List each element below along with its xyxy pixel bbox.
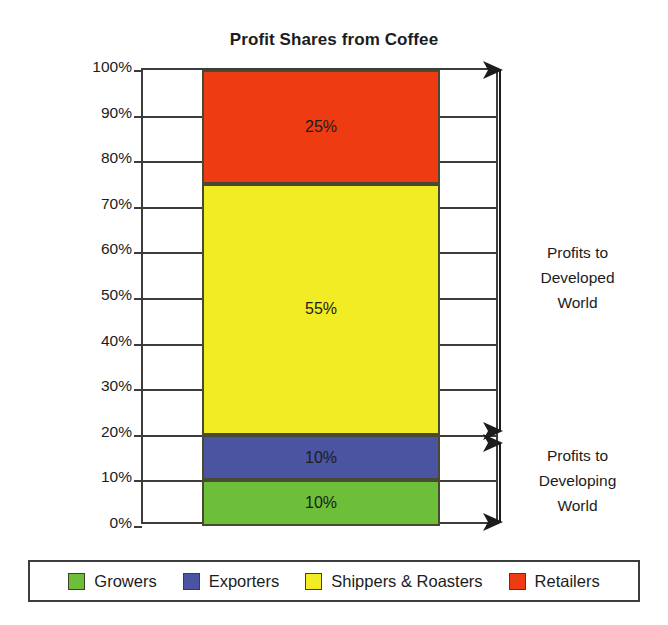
developed-world-label-line1: Profits to: [490, 240, 665, 265]
y-axis-tick-label: 60%: [72, 240, 132, 258]
y-axis-tick: [134, 252, 142, 254]
legend-swatch-icon: [183, 573, 200, 590]
y-axis-tick-label: 30%: [72, 377, 132, 395]
y-axis-tick-label: 70%: [72, 195, 132, 213]
y-axis-tick: [134, 298, 142, 300]
legend-item-label: Shippers & Roasters: [331, 572, 482, 591]
bar-segment-exporters[interactable]: 10%: [204, 435, 438, 481]
bar-segment-shippers-roasters[interactable]: 55%: [204, 184, 438, 435]
developed-world-label-line2: Developed: [490, 265, 665, 290]
y-axis-tick: [134, 435, 142, 437]
y-axis-tick: [134, 389, 142, 391]
legend-swatch-icon: [305, 573, 322, 590]
y-axis-tick-label: 10%: [72, 468, 132, 486]
y-axis-tick-label: 0%: [72, 514, 132, 532]
developing-world-label-line3: World: [490, 493, 665, 518]
y-axis-tick-label: 20%: [72, 423, 132, 441]
developed-world-label: Profits to Developed World: [490, 240, 665, 315]
y-axis-tick-label: 40%: [72, 332, 132, 350]
developing-world-label: Profits to Developing World: [490, 443, 665, 518]
legend-swatch-icon: [68, 573, 85, 590]
developing-world-label-line1: Profits to: [490, 443, 665, 468]
legend-item-growers[interactable]: Growers: [68, 572, 156, 591]
bar-segment-retailers[interactable]: 25%: [204, 70, 438, 184]
y-axis-tick: [134, 161, 142, 163]
y-axis-tick: [134, 344, 142, 346]
y-axis-tick: [134, 207, 142, 209]
bar-segment-value-label: 25%: [305, 118, 337, 136]
stacked-bar[interactable]: 10%10%55%25%: [202, 70, 440, 526]
legend-item-label: Growers: [94, 572, 156, 591]
legend-item-shippers-roasters[interactable]: Shippers & Roasters: [305, 572, 482, 591]
y-axis-tick: [134, 116, 142, 118]
y-axis-tick: [134, 480, 142, 482]
y-axis-tick-label: 80%: [72, 149, 132, 167]
y-axis-tick-label: 50%: [72, 286, 132, 304]
bar-segment-growers[interactable]: 10%: [204, 480, 438, 526]
legend-item-exporters[interactable]: Exporters: [183, 572, 280, 591]
legend: GrowersExportersShippers & RoastersRetai…: [28, 560, 640, 602]
legend-swatch-icon: [509, 573, 526, 590]
y-axis-tick-label: 90%: [72, 104, 132, 122]
plot-area: 10%10%55%25%: [141, 68, 498, 524]
legend-item-retailers[interactable]: Retailers: [509, 572, 600, 591]
bar-segment-value-label: 55%: [305, 300, 337, 318]
developed-world-label-line3: World: [490, 290, 665, 315]
legend-item-label: Retailers: [535, 572, 600, 591]
y-axis-tick-label: 100%: [72, 58, 132, 76]
y-axis-tick-labels: 0%10%20%30%40%50%60%70%80%90%100%: [70, 68, 132, 524]
bar-segment-value-label: 10%: [305, 494, 337, 512]
bar-segment-value-label: 10%: [305, 449, 337, 467]
developing-world-label-line2: Developing: [490, 468, 665, 493]
y-axis-tick: [134, 70, 142, 72]
page-title: Profit Shares from Coffee: [0, 30, 668, 50]
y-axis-tick: [134, 526, 142, 528]
legend-item-label: Exporters: [209, 572, 280, 591]
